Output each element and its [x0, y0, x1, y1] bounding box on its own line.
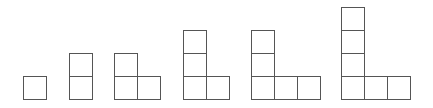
square-tile [69, 53, 93, 77]
square-tile [341, 30, 365, 54]
square-tile [183, 53, 207, 77]
square-tile [114, 76, 138, 100]
square-tile [251, 53, 275, 77]
square-tile [387, 76, 411, 100]
square-tile [251, 30, 275, 54]
square-tile [69, 76, 93, 100]
square-tile [341, 53, 365, 77]
square-tile [364, 76, 388, 100]
square-tile [137, 76, 161, 100]
square-tile [297, 76, 321, 100]
square-tile [341, 76, 365, 100]
square-tile [341, 7, 365, 31]
square-tile [183, 76, 207, 100]
square-tile [23, 76, 47, 100]
tile-pattern-diagram [0, 0, 433, 108]
square-tile [206, 76, 230, 100]
square-tile [114, 53, 138, 77]
square-tile [274, 76, 298, 100]
square-tile [183, 30, 207, 54]
square-tile [251, 76, 275, 100]
